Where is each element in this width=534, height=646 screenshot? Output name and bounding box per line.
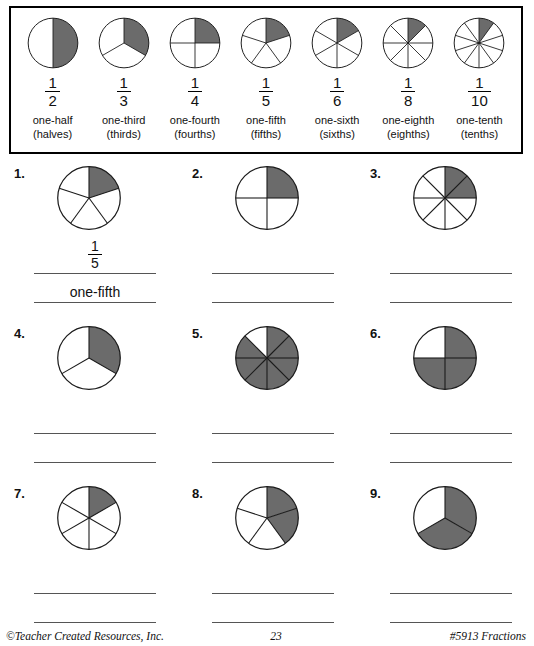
fraction-key-item: 14one-fourth(fourths)	[159, 14, 230, 142]
answer-word-blank[interactable]	[34, 434, 156, 463]
answer-fraction-blank[interactable]	[34, 562, 156, 594]
fraction-denominator: 3	[117, 91, 131, 108]
fraction-circle	[55, 164, 123, 232]
problem-figure	[0, 484, 178, 552]
key-fraction: 18	[401, 75, 415, 108]
fraction-circle	[239, 16, 293, 70]
fraction-circle	[97, 16, 151, 70]
answer-area	[390, 562, 512, 623]
answer-area: 15one-fifth	[34, 242, 156, 303]
problem-figure	[356, 484, 534, 552]
fraction-denominator: 5	[259, 91, 273, 108]
answer-word-blank[interactable]	[390, 594, 512, 623]
fraction-circle	[233, 484, 301, 552]
problem-figure	[356, 164, 534, 232]
answer-fraction-blank[interactable]	[212, 562, 334, 594]
answer-word-blank[interactable]	[390, 274, 512, 303]
fraction-numerator: 1	[401, 75, 415, 91]
answer-fraction-value: 15	[34, 234, 156, 271]
problem-item: 8.	[178, 482, 356, 642]
fraction-denominator: 2	[45, 91, 59, 108]
fraction-denominator: 8	[401, 91, 415, 108]
answer-area	[390, 402, 512, 463]
fraction-circle	[55, 324, 123, 392]
answer-fraction-blank[interactable]	[212, 242, 334, 274]
answer-area	[212, 402, 334, 463]
fraction-key-name: one-eighth	[382, 114, 434, 128]
fraction-key-name: one-half	[33, 114, 73, 128]
footer-copyright: ©Teacher Created Resources, Inc.	[0, 630, 236, 642]
answer-word-blank[interactable]	[34, 594, 156, 623]
page-footer: ©Teacher Created Resources, Inc. 23 #591…	[0, 630, 534, 642]
fraction-numerator: 1	[330, 75, 344, 91]
answer-fraction-blank[interactable]	[34, 402, 156, 434]
answer-fraction-blank[interactable]	[390, 242, 512, 274]
fraction-key-item: 18one-eighth(eighths)	[373, 14, 444, 142]
answer-word-blank[interactable]	[390, 434, 512, 463]
problem-figure	[0, 324, 178, 392]
fraction-key-name: one-third	[102, 114, 145, 128]
problem-figure	[178, 484, 356, 552]
problem-row: 1.15one-fifth2.3.	[0, 162, 534, 322]
answer-word-value: one-fifth	[34, 284, 156, 300]
fraction-key-plural: (halves)	[33, 128, 72, 142]
fraction-circle	[168, 16, 222, 70]
answer-word-blank[interactable]	[212, 434, 334, 463]
fraction-key-item: 15one-fifth(fifths)	[230, 14, 301, 142]
problem-row: 7.8.9.	[0, 482, 534, 642]
answer-area	[212, 242, 334, 303]
fraction-circle	[233, 164, 301, 232]
problem-item: 9.	[356, 482, 534, 642]
fraction-numerator: 1	[88, 239, 102, 254]
problem-item: 3.	[356, 162, 534, 322]
fraction-denominator: 5	[88, 254, 102, 270]
key-fraction: 13	[117, 75, 131, 108]
fraction-key-item: 16one-sixth(sixths)	[302, 14, 373, 142]
fraction-numerator: 1	[468, 75, 491, 91]
problem-figure	[178, 164, 356, 232]
fraction-circle	[233, 324, 301, 392]
key-fraction: 14	[188, 75, 202, 108]
key-fraction: 15	[259, 75, 273, 108]
fraction-key-plural: (fifths)	[251, 128, 282, 142]
problem-grid: 1.15one-fifth2.3.4.5.6.7.8.9.	[0, 162, 534, 642]
answer-word-blank[interactable]: one-fifth	[34, 274, 156, 303]
answer-fraction-blank[interactable]	[390, 562, 512, 594]
problem-item: 2.	[178, 162, 356, 322]
answer-word-blank[interactable]	[212, 594, 334, 623]
fraction-key-plural: (sixths)	[319, 128, 354, 142]
answer-fraction-blank[interactable]	[390, 402, 512, 434]
answer-fraction-blank[interactable]	[212, 402, 334, 434]
problem-figure	[356, 324, 534, 392]
answer-word-blank[interactable]	[212, 274, 334, 303]
problem-figure	[178, 324, 356, 392]
fraction-circle	[411, 484, 479, 552]
fraction-denominator: 6	[330, 91, 344, 108]
fraction-circle	[411, 324, 479, 392]
fraction-key-plural: (tenths)	[461, 128, 498, 142]
fraction-key-item: 110one-tenth(tenths)	[444, 14, 515, 142]
key-fraction: 12	[45, 75, 59, 108]
fraction-numerator: 1	[45, 75, 59, 91]
worksheet-page: 12one-half(halves)13one-third(thirds)14o…	[0, 0, 534, 646]
fraction-key-name: one-fourth	[170, 114, 220, 128]
fraction-circle	[411, 164, 479, 232]
answer-area	[34, 562, 156, 623]
problem-item: 6.	[356, 322, 534, 482]
fraction-denominator: 4	[188, 91, 202, 108]
answer-fraction-blank[interactable]: 15	[34, 242, 156, 274]
fraction-circle	[26, 16, 80, 70]
fraction-key-name: one-sixth	[315, 114, 360, 128]
problem-figure	[0, 164, 178, 232]
problem-item: 7.	[0, 482, 178, 642]
fraction-key-name: one-tenth	[456, 114, 502, 128]
fraction-key-box: 12one-half(halves)13one-third(thirds)14o…	[9, 6, 523, 154]
fraction-numerator: 1	[188, 75, 202, 91]
fraction-circle	[381, 16, 435, 70]
key-fraction: 16	[330, 75, 344, 108]
fraction-key-item: 13one-third(thirds)	[88, 14, 159, 142]
problem-item: 1.15one-fifth	[0, 162, 178, 322]
key-fraction: 110	[468, 75, 491, 108]
fraction-key-name: one-fifth	[246, 114, 286, 128]
problem-row: 4.5.6.	[0, 322, 534, 482]
